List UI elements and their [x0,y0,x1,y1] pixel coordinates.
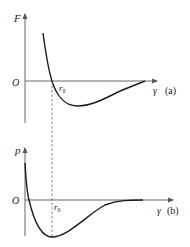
panel-b-marker-label: r0 [54,202,61,213]
panel-a-origin-label: O [12,77,19,88]
panel-a-x-label: γ [153,85,158,96]
panel-a-y-label: F [13,12,21,24]
panel-a-marker-label: r0 [59,83,66,94]
panel-b-origin-label: O [12,195,19,206]
panel-a-force-curve [43,33,145,106]
force-potential-diagram: F O r0 γ (a) p O r0 γ (b) [0,0,190,247]
panel-a: F O r0 γ (a) [12,12,176,123]
panel-a-tag: (a) [165,85,176,97]
panel-b: p O r0 γ (b) [12,144,179,237]
panel-b-y-label: p [14,144,21,156]
panel-b-tag: (b) [167,205,179,217]
panel-b-x-label: γ [157,205,162,216]
